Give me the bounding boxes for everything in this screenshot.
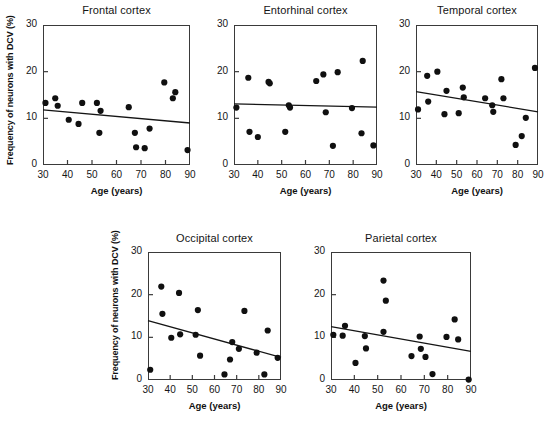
data-point	[170, 95, 176, 101]
data-point	[320, 71, 326, 77]
data-point	[133, 144, 139, 150]
x-tick-label: 60	[294, 169, 318, 180]
data-point	[443, 88, 449, 94]
y-tick-label: 30	[384, 18, 410, 29]
data-point	[330, 143, 336, 149]
data-point	[342, 323, 348, 329]
y-tick-label: 20	[299, 288, 325, 299]
data-point	[246, 129, 252, 135]
data-point	[275, 355, 281, 361]
data-point	[254, 350, 260, 356]
data-point	[363, 345, 369, 351]
x-tick-label: 90	[269, 384, 293, 395]
y-tick-label: 30	[202, 18, 228, 29]
x-axis-label-entorhinal-cortex: Age (years)	[234, 185, 377, 196]
y-axis-label-occipital-cortex: Frequency of neurons with DCV (%)	[110, 252, 120, 380]
data-point	[168, 335, 174, 341]
data-point	[466, 376, 472, 382]
data-point	[482, 95, 488, 101]
x-tick-label: 80	[247, 384, 271, 395]
data-point	[456, 110, 462, 116]
data-point	[323, 109, 329, 115]
chart-panel-frontal-cortex: Frontal cortex010203030405060708090Age (…	[3, 4, 190, 205]
chart-panel-parietal-cortex: Parietal cortex010203030405060708090Age …	[291, 232, 471, 420]
x-tick-label: 60	[105, 169, 129, 180]
data-point	[75, 121, 81, 127]
data-point	[282, 129, 288, 135]
data-point	[79, 100, 85, 106]
chart-panel-temporal-cortex: Temporal cortex010203030405060708090Age …	[376, 4, 538, 205]
x-tick-label: 50	[366, 384, 390, 395]
y-tick-label: 20	[202, 65, 228, 76]
chart-title-occipital-cortex: Occipital cortex	[148, 232, 281, 244]
data-point	[142, 145, 148, 151]
data-point	[498, 76, 504, 82]
x-axis-label-frontal-cortex: Age (years)	[43, 185, 190, 196]
x-tick-label: 40	[56, 169, 80, 180]
x-tick-label: 50	[270, 169, 294, 180]
data-point	[241, 308, 247, 314]
data-point	[236, 346, 242, 352]
regression-line-parietal-cortex	[331, 327, 471, 352]
data-point	[352, 360, 358, 366]
data-point	[233, 105, 239, 111]
regression-line-temporal-cortex	[416, 92, 538, 112]
data-point	[330, 332, 336, 338]
data-point	[490, 109, 496, 115]
data-point	[221, 371, 227, 377]
x-tick-label: 40	[342, 384, 366, 395]
data-point	[52, 95, 58, 101]
data-point	[97, 108, 103, 114]
regression-line-occipital-cortex	[148, 321, 281, 358]
data-point	[184, 147, 190, 153]
data-point	[197, 353, 203, 359]
x-tick-label: 30	[222, 169, 246, 180]
data-point	[176, 290, 182, 296]
x-tick-label: 90	[526, 169, 546, 180]
data-point	[460, 84, 466, 90]
chart-title-temporal-cortex: Temporal cortex	[416, 4, 538, 16]
data-point	[287, 105, 293, 111]
chart-panel-occipital-cortex: Occipital cortex010203030405060708090Age…	[108, 232, 281, 420]
x-tick-label: 70	[129, 169, 153, 180]
chart-title-parietal-cortex: Parietal cortex	[331, 232, 471, 244]
data-point	[513, 142, 519, 148]
data-point	[489, 102, 495, 108]
x-tick-label: 30	[31, 169, 55, 180]
data-point	[132, 130, 138, 136]
data-point	[424, 73, 430, 79]
data-point	[417, 333, 423, 339]
data-point	[408, 353, 414, 359]
x-axis-label-occipital-cortex: Age (years)	[148, 400, 281, 411]
data-point	[96, 130, 102, 136]
data-point	[455, 336, 461, 342]
x-axis-label-parietal-cortex: Age (years)	[331, 400, 471, 411]
data-point	[429, 371, 435, 377]
data-point	[380, 277, 386, 283]
x-tick-label: 80	[436, 384, 460, 395]
data-point	[523, 115, 529, 121]
y-tick-label: 0	[299, 373, 325, 384]
data-point	[358, 130, 364, 136]
x-tick-label: 60	[389, 384, 413, 395]
data-point	[255, 134, 261, 140]
data-point	[425, 98, 431, 104]
y-tick-label: 20	[384, 65, 410, 76]
data-point	[313, 78, 319, 84]
y-tick-label: 0	[202, 158, 228, 169]
data-point	[519, 133, 525, 139]
data-point	[245, 75, 251, 81]
data-point	[177, 331, 183, 337]
data-point	[418, 346, 424, 352]
figure-panel-grid: Frontal cortex010203030405060708090Age (…	[0, 0, 546, 430]
chart-title-frontal-cortex: Frontal cortex	[43, 4, 190, 16]
y-axis-label-frontal-cortex: Frequency of neurons with DCV (%)	[5, 25, 15, 165]
chart-title-entorhinal-cortex: Entorhinal cortex	[234, 4, 377, 16]
data-point	[147, 367, 153, 373]
data-point	[193, 332, 199, 338]
x-tick-label: 70	[317, 169, 341, 180]
data-point	[229, 339, 235, 345]
data-point	[360, 58, 366, 64]
data-point	[415, 106, 421, 112]
data-point	[267, 80, 273, 86]
